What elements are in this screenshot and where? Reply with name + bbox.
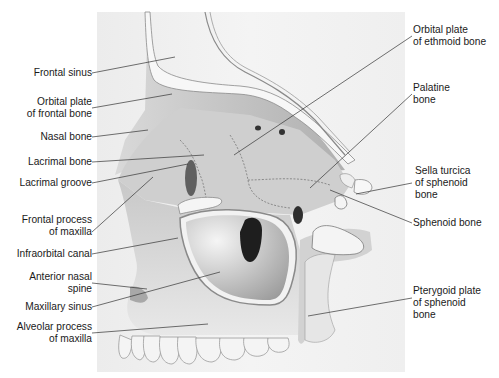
label-frontal-process-maxilla: Frontal process of maxilla <box>22 214 92 238</box>
label-infraorbital-canal: Infraorbital canal <box>17 248 92 260</box>
label-nasal-bone: Nasal bone <box>40 131 92 143</box>
label-orbital-plate-ethmoid: Orbital plate of ethmoid bone <box>413 24 486 48</box>
teeth-row <box>119 335 289 364</box>
label-alveolar-process-maxilla: Alveolar process of maxilla <box>17 321 92 345</box>
label-lacrimal-bone: Lacrimal bone <box>28 156 92 168</box>
label-pterygoid-plate: Pterygoid plate of sphenoid bone <box>413 285 481 321</box>
label-lacrimal-groove: Lacrimal groove <box>20 177 92 189</box>
label-frontal-sinus: Frontal sinus <box>34 67 92 79</box>
label-maxillary-sinus: Maxillary sinus <box>25 301 92 313</box>
label-anterior-nasal-spine: Anterior nasal spine <box>29 271 92 295</box>
label-sella-turcica: Sella turcica of sphenoid bone <box>415 165 471 201</box>
label-orbital-plate-frontal: Orbital plate of frontal bone <box>27 96 92 120</box>
label-palatine-bone: Palatine bone <box>413 82 450 106</box>
label-sphenoid-bone: Sphenoid bone <box>413 217 482 229</box>
